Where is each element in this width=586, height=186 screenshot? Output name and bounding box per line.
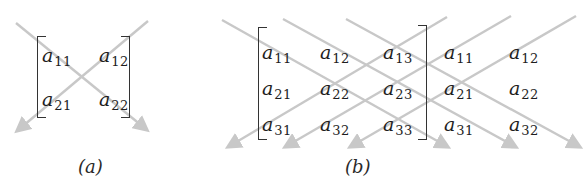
matrix-element-a12: a12: [99, 46, 129, 65]
matrix-element-a33: a33: [383, 115, 413, 134]
element-base: a: [262, 41, 273, 63]
element-subscript: 11: [456, 51, 474, 66]
element-base: a: [383, 113, 394, 135]
matrix-element-a22: a22: [320, 79, 350, 98]
element-subscript: 21: [274, 87, 292, 102]
matrix-element-a13: a13: [383, 43, 413, 62]
matrix-element-a11: a11: [42, 46, 72, 65]
element-base: a: [320, 113, 331, 135]
matrix-element-a12: a12: [509, 43, 539, 62]
matrix-element-a31: a31: [444, 115, 474, 134]
element-base: a: [320, 77, 331, 99]
matrix-element-a32: a32: [320, 115, 350, 134]
element-subscript: 22: [111, 98, 129, 113]
element-base: a: [262, 77, 273, 99]
matrix-element-a22: a22: [99, 90, 129, 109]
element-base: a: [383, 77, 394, 99]
matrix-element-a23: a23: [383, 79, 413, 98]
element-subscript: 11: [54, 54, 72, 69]
matrix-element-a11: a11: [444, 43, 474, 62]
element-subscript: 31: [274, 123, 292, 138]
element-base: a: [383, 41, 394, 63]
element-base: a: [509, 113, 520, 135]
matrix-element-a32: a32: [509, 115, 539, 134]
matrix-element-a21: a21: [262, 79, 292, 98]
element-base: a: [320, 41, 331, 63]
element-subscript: 21: [54, 98, 72, 113]
element-subscript: 31: [456, 123, 474, 138]
element-subscript: 12: [111, 54, 129, 69]
element-subscript: 12: [521, 51, 539, 66]
element-base: a: [42, 44, 53, 66]
element-base: a: [99, 44, 110, 66]
element-base: a: [444, 113, 455, 135]
element-base: a: [444, 41, 455, 63]
element-base: a: [509, 41, 520, 63]
matrix-element-a31: a31: [262, 115, 292, 134]
element-subscript: 21: [456, 87, 474, 102]
element-base: a: [99, 88, 110, 110]
matrix-element-a21: a21: [42, 90, 72, 109]
matrix-element-a21: a21: [444, 79, 474, 98]
element-subscript: 11: [274, 51, 292, 66]
element-subscript: 13: [395, 51, 413, 66]
diagram-b-right-bracket: [418, 25, 427, 140]
matrix-element-a22: a22: [509, 79, 539, 98]
element-base: a: [262, 113, 273, 135]
element-subscript: 22: [521, 87, 539, 102]
matrix-element-a11: a11: [262, 43, 292, 62]
element-subscript: 22: [332, 87, 350, 102]
element-subscript: 12: [332, 51, 350, 66]
element-base: a: [444, 77, 455, 99]
element-subscript: 33: [395, 123, 413, 138]
element-base: a: [509, 77, 520, 99]
caption-b: (b): [345, 158, 371, 176]
element-subscript: 32: [332, 123, 350, 138]
determinant-diagram: a11a12a21a22 a11a12a13a11a12a21a22a23a21…: [0, 0, 586, 186]
element-subscript: 32: [521, 123, 539, 138]
matrix-element-a12: a12: [320, 43, 350, 62]
element-subscript: 23: [395, 87, 413, 102]
element-base: a: [42, 88, 53, 110]
caption-a: (a): [78, 158, 103, 176]
